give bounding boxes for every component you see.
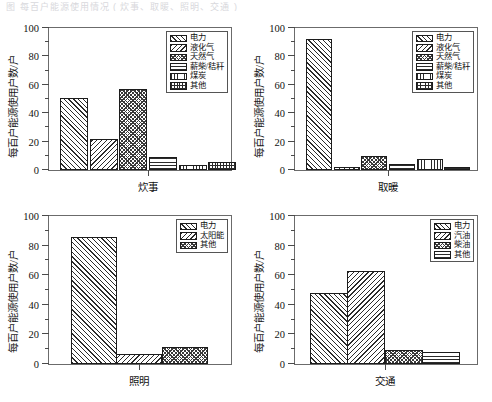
y-tick-major xyxy=(288,112,295,113)
legend-swatch-icon xyxy=(180,232,197,240)
y-tick-label: 20 xyxy=(29,329,40,340)
legend-swatch-icon xyxy=(416,54,433,62)
legend-label: 汽油 xyxy=(454,232,470,241)
bar-cooking-4 xyxy=(179,165,207,170)
x-tick xyxy=(139,364,140,370)
legend-swatch-icon xyxy=(434,251,451,259)
legend-label: 液化气 xyxy=(190,44,214,53)
legend-swatch-icon xyxy=(416,73,433,81)
legend-swatch-icon xyxy=(434,242,451,250)
y-tick-major xyxy=(42,169,49,170)
bar-lighting-0 xyxy=(71,237,117,364)
bar-cooking-0 xyxy=(60,98,88,170)
x-tick xyxy=(385,364,386,370)
chart-panel-lighting: 每百户能源使用户数/户 020406080100 电力太阳能其他 照明 xyxy=(0,201,246,402)
legend-item: 液化气 xyxy=(416,44,470,53)
legend-item: 煤炭 xyxy=(170,72,224,81)
legend-item: 电力 xyxy=(416,34,470,43)
legend-item: 电力 xyxy=(434,222,470,231)
bar-heating-4 xyxy=(417,159,443,170)
legend-label: 电力 xyxy=(200,222,216,231)
legend-item: 汽油 xyxy=(434,232,470,241)
y-tick-major xyxy=(42,27,49,28)
bar-heating-5 xyxy=(444,167,470,170)
y-tick-label: 40 xyxy=(29,108,40,119)
legend-swatch-icon xyxy=(416,82,433,90)
y-tick-label: 80 xyxy=(29,51,40,62)
legend-swatch-icon xyxy=(170,82,187,90)
bar-cooking-5 xyxy=(208,162,236,170)
y-axis-title-cooking: 每百户能源使用户数/户 xyxy=(4,11,20,201)
y-tick-major xyxy=(288,27,295,28)
legend-label: 薪柴/秸秆 xyxy=(190,63,224,72)
bar-heating-2 xyxy=(361,156,387,170)
legend-item: 液化气 xyxy=(170,44,224,53)
chart-panel-cooking: 每百户能源使用户数/户 020406080100 电力液化气天然气薪柴/秸秆煤炭… xyxy=(0,11,246,201)
legend-swatch-icon xyxy=(416,63,433,71)
plot-area-transport: 020406080100 电力汽油柴油其他 xyxy=(294,215,478,365)
chart-panel-transport: 每百户能源使用户数/户 020406080100 电力汽油柴油其他 交通 xyxy=(246,201,492,402)
legend-swatch-icon xyxy=(170,73,187,81)
bar-transport-1 xyxy=(347,271,385,364)
legend-label: 其他 xyxy=(454,251,470,260)
y-tick-major xyxy=(42,112,49,113)
y-tick-label: 40 xyxy=(275,299,286,310)
bar-cooking-3 xyxy=(149,157,177,170)
y-tick-major xyxy=(288,304,295,305)
y-tick-label: 60 xyxy=(275,79,286,90)
legend-label: 太阳能 xyxy=(200,232,224,241)
y-axis-title-heating: 每百户能源使用户数/户 xyxy=(250,11,266,201)
y-tick-label: 60 xyxy=(29,270,40,281)
legend-label: 电力 xyxy=(436,34,452,43)
bar-cooking-2 xyxy=(119,89,147,170)
legend-item: 其他 xyxy=(170,82,224,91)
legend-item: 其他 xyxy=(434,251,470,260)
y-tick-major xyxy=(288,215,295,216)
x-tick xyxy=(148,170,149,176)
legend-label: 柴油 xyxy=(454,241,470,250)
y-tick-major xyxy=(42,84,49,85)
legend-label: 天然气 xyxy=(190,53,214,62)
legend-item: 煤炭 xyxy=(416,72,470,81)
legend-item: 电力 xyxy=(170,34,224,43)
legend-label: 液化气 xyxy=(436,44,460,53)
y-tick-label: 100 xyxy=(269,23,285,34)
y-tick-label: 20 xyxy=(275,136,286,147)
legend-heating: 电力液化气天然气薪柴/秸秆煤炭其他 xyxy=(412,31,474,93)
y-tick-major xyxy=(288,363,295,364)
plot-area-heating: 020406080100 电力液化气天然气薪柴/秸秆煤炭其他 xyxy=(294,27,478,171)
plot-area-lighting: 020406080100 电力太阳能其他 xyxy=(48,215,232,365)
legend-transport: 电力汽油柴油其他 xyxy=(430,219,474,262)
y-tick-major xyxy=(288,55,295,56)
legend-swatch-icon xyxy=(434,223,451,231)
legend-item: 天然气 xyxy=(170,53,224,62)
legend-lighting: 电力太阳能其他 xyxy=(176,219,228,253)
x-axis-label-cooking: 炊事 xyxy=(138,179,158,194)
legend-item: 天然气 xyxy=(416,53,470,62)
y-tick-major xyxy=(288,84,295,85)
legend-item: 电力 xyxy=(180,222,224,231)
legend-label: 煤炭 xyxy=(190,72,206,81)
y-tick-major xyxy=(42,245,49,246)
y-tick-label: 80 xyxy=(29,240,40,251)
y-axis-title-lighting: 每百户能源使用户数/户 xyxy=(4,201,20,402)
y-tick-major xyxy=(288,274,295,275)
x-axis-label-heating: 取暖 xyxy=(378,179,398,194)
y-tick-label: 20 xyxy=(29,136,40,147)
y-tick-major xyxy=(42,304,49,305)
y-tick-label: 100 xyxy=(269,211,285,222)
x-tick xyxy=(388,170,389,176)
legend-label: 其他 xyxy=(190,82,206,91)
y-axis-title-transport: 每百户能源使用户数/户 xyxy=(250,201,266,402)
y-tick-label: 0 xyxy=(34,359,39,370)
legend-swatch-icon xyxy=(180,242,197,250)
legend-label: 其他 xyxy=(200,241,216,250)
chart-panel-heating: 每百户能源使用户数/户 020406080100 电力液化气天然气薪柴/秸秆煤炭… xyxy=(246,11,492,201)
x-axis-label-transport: 交通 xyxy=(375,373,395,388)
y-tick-label: 80 xyxy=(275,240,286,251)
y-tick-major xyxy=(288,245,295,246)
y-tick-label: 0 xyxy=(280,165,285,176)
bar-transport-3 xyxy=(422,352,460,364)
y-tick-major xyxy=(42,215,49,216)
legend-item: 薪柴/秸秆 xyxy=(170,63,224,72)
